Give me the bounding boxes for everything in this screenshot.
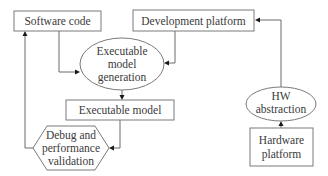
edge-debug-to-software [23, 31, 34, 148]
node-debug-performance-validation[interactable]: Debug and performance validation [33, 126, 109, 170]
node-label: Software code [24, 15, 90, 27]
edge-hwplatform-to-hwabstraction [279, 121, 284, 128]
arrowhead-icon [279, 121, 284, 126]
node-hw-abstraction[interactable]: HW abstraction [246, 87, 316, 121]
arrowhead-icon [164, 61, 169, 66]
node-label-line3: validation [48, 155, 94, 167]
edge-devplatform-to-generation [164, 31, 175, 66]
node-label: Executable model [79, 104, 162, 116]
node-label: Development platform [141, 15, 245, 28]
arrowhead-icon [109, 146, 114, 151]
node-label-line2: platform [262, 148, 302, 161]
flow-diagram: Software code Development platform Execu… [0, 0, 328, 176]
node-label-line1: HW [271, 90, 290, 102]
node-executable-model[interactable]: Executable model [66, 100, 174, 120]
edge-hwabstraction-to-devplatform [255, 18, 281, 88]
node-label-line1: Executable [96, 45, 147, 57]
edge-execmodel-to-debug [109, 120, 120, 151]
node-label-line1: Hardware [259, 134, 304, 146]
arrowhead-icon [255, 18, 260, 23]
node-label-line2: model [108, 58, 137, 70]
arrowhead-icon [23, 31, 28, 36]
node-label-line2: performance [42, 142, 100, 155]
edge-software-to-generation [59, 31, 80, 75]
node-executable-model-generation[interactable]: Executable model generation [80, 38, 164, 90]
edge-generation-to-execmodel [120, 90, 125, 100]
node-label-line1: Debug and [46, 129, 96, 142]
node-hardware-platform[interactable]: Hardware platform [250, 128, 313, 166]
arrowhead-icon [120, 95, 125, 100]
node-software-code[interactable]: Software code [14, 11, 101, 31]
diagram-svg: Software code Development platform Execu… [0, 0, 328, 176]
node-label-line3: generation [98, 71, 147, 84]
node-label-line2: abstraction [256, 103, 307, 115]
node-development-platform[interactable]: Development platform [133, 10, 254, 31]
arrowhead-icon [75, 70, 80, 75]
